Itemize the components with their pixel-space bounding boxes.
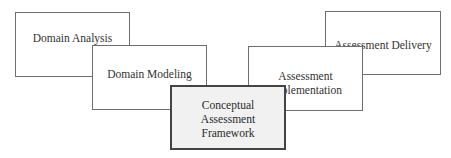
stage-label-line: Assessment: [201, 112, 255, 126]
stage-label-line: Framework: [201, 126, 255, 140]
stage-label-line: Domain Modeling: [107, 67, 192, 81]
stage-label-line: Conceptual: [201, 98, 255, 112]
stage-box-conceptual-assessment-framework: Conceptual Assessment Framework: [170, 85, 286, 150]
stage-label: Domain Modeling: [107, 67, 192, 81]
stage-label-line: Domain Analysis: [33, 31, 113, 45]
stage-label: Domain Analysis: [33, 31, 113, 45]
stage-label: Conceptual Assessment Framework: [201, 98, 255, 140]
stage-label-line: Assessment: [269, 69, 342, 83]
